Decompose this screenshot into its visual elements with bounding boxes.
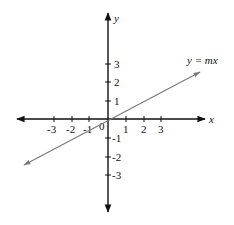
origin-label: 0 bbox=[99, 120, 105, 132]
coordinate-plane: -3 -2 -1 1 2 3 0 3 2 1 -1 -2 -3 x y y = … bbox=[0, 0, 234, 225]
x-tick-label: -3 bbox=[47, 123, 57, 135]
y-tick-label: -1 bbox=[112, 132, 121, 144]
y-tick-label: 2 bbox=[114, 76, 120, 88]
line-equation-label: y = mx bbox=[186, 54, 218, 66]
y-axis-label: y bbox=[113, 12, 119, 24]
y-tick-label: -2 bbox=[112, 151, 121, 163]
y-tick-label: 1 bbox=[114, 95, 120, 107]
x-tick-label: 1 bbox=[123, 123, 129, 135]
y-tick-label: -3 bbox=[112, 169, 122, 181]
x-tick-label: -2 bbox=[66, 123, 75, 135]
x-tick-label: 2 bbox=[141, 123, 147, 135]
y-tick-label: 3 bbox=[114, 58, 120, 70]
x-axis-label: x bbox=[208, 113, 214, 125]
x-tick-label: 3 bbox=[158, 123, 164, 135]
